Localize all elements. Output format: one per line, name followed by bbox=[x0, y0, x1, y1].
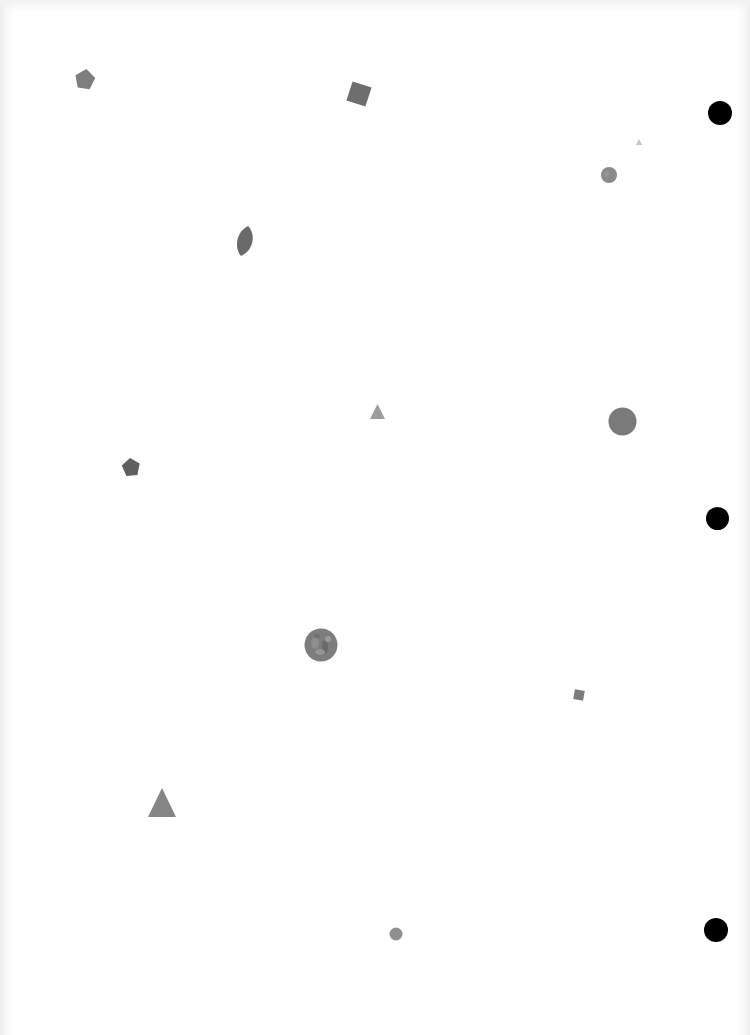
triangle-small-shape bbox=[370, 404, 385, 419]
scanned-page bbox=[0, 0, 750, 1035]
circle-textured-shape bbox=[304, 628, 338, 662]
pentagon-shape bbox=[121, 457, 141, 477]
square-shape bbox=[347, 82, 371, 106]
square-small-shape bbox=[573, 689, 585, 701]
punch-hole-top bbox=[708, 101, 732, 125]
tiny-speck-shape bbox=[636, 139, 642, 145]
pentagon-shape bbox=[74, 68, 96, 90]
punch-hole-middle bbox=[706, 507, 729, 530]
leaf-shape bbox=[234, 224, 256, 258]
punch-hole-bottom bbox=[704, 918, 728, 942]
circle-small-shape bbox=[601, 167, 617, 183]
triangle-shape bbox=[148, 788, 176, 817]
circle-large-shape bbox=[608, 407, 637, 436]
circle-small-shape bbox=[389, 927, 403, 941]
